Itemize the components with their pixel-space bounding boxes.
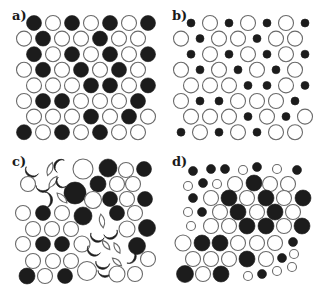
open-disc xyxy=(196,267,211,282)
small-filled-dot xyxy=(196,97,204,105)
filled-disc xyxy=(213,266,229,282)
open-disc xyxy=(141,252,156,267)
panel-b: b) xyxy=(172,8,313,140)
small-filled-dot xyxy=(263,50,271,58)
filled-disc xyxy=(177,266,194,283)
filled-disc xyxy=(93,31,108,46)
filled-disc xyxy=(36,237,51,252)
open-disc xyxy=(222,252,237,267)
open-disc xyxy=(122,47,137,62)
crescent-fragment xyxy=(36,185,50,192)
filled-disc xyxy=(199,179,208,188)
open-disc xyxy=(112,31,127,46)
small-filled-dot xyxy=(263,81,271,89)
filled-disc xyxy=(58,269,73,284)
filled-disc xyxy=(55,94,70,109)
filled-disc xyxy=(293,166,302,175)
filled-disc xyxy=(90,176,106,192)
panel-c: c) xyxy=(12,154,156,284)
open-disc xyxy=(277,191,292,206)
open-disc xyxy=(128,206,143,221)
open-disc xyxy=(78,262,97,281)
small-filled-dot xyxy=(187,50,195,58)
open-disc xyxy=(222,219,237,234)
small-filled-dot xyxy=(225,50,233,58)
filled-disc xyxy=(189,194,198,203)
filled-disc xyxy=(84,78,99,93)
open-disc xyxy=(269,94,284,109)
filled-disc xyxy=(36,94,51,109)
panel-b-label: b) xyxy=(172,8,187,23)
filled-disc xyxy=(129,238,146,255)
open-disc xyxy=(288,31,303,46)
open-disc xyxy=(27,78,42,93)
open-disc xyxy=(64,254,79,269)
filled-disc xyxy=(221,190,237,206)
open-disc xyxy=(187,222,196,231)
filled-disc xyxy=(221,165,230,174)
filled-disc xyxy=(17,125,32,140)
open-disc xyxy=(36,125,51,140)
open-disc xyxy=(241,47,256,62)
filled-disc xyxy=(198,208,207,217)
open-disc xyxy=(122,16,137,31)
open-disc xyxy=(46,78,61,93)
open-disc xyxy=(279,47,294,62)
small-filled-dot xyxy=(215,97,223,105)
open-disc xyxy=(290,250,299,259)
filled-disc xyxy=(74,62,89,77)
filled-disc xyxy=(103,192,118,207)
filled-disc xyxy=(258,218,274,234)
open-disc xyxy=(120,192,135,207)
panel-d-label: d) xyxy=(172,154,187,169)
small-filled-dot xyxy=(263,19,271,27)
open-disc xyxy=(279,78,294,93)
filled-disc xyxy=(36,31,51,46)
open-disc xyxy=(46,16,61,31)
open-disc xyxy=(26,254,41,269)
filled-disc xyxy=(239,251,255,267)
open-disc xyxy=(241,16,256,31)
open-disc xyxy=(103,109,118,124)
open-disc xyxy=(184,208,193,217)
panel-d: d) xyxy=(172,154,311,283)
open-disc xyxy=(119,163,134,178)
open-disc xyxy=(174,94,189,109)
open-disc xyxy=(288,125,303,140)
small-filled-dot xyxy=(215,128,223,136)
open-disc xyxy=(222,109,237,124)
open-disc xyxy=(231,31,246,46)
filled-disc xyxy=(212,235,228,251)
open-disc xyxy=(288,263,297,272)
filled-disc xyxy=(230,204,246,220)
open-disc xyxy=(119,221,135,237)
filled-disc xyxy=(122,109,137,124)
filled-disc xyxy=(36,62,51,77)
open-disc xyxy=(84,47,99,62)
open-disc xyxy=(231,125,246,140)
open-disc xyxy=(55,62,70,77)
particle-packing-figure: a) b) c) d) xyxy=(0,0,318,292)
small-filled-dot xyxy=(196,66,204,74)
filled-disc xyxy=(19,268,35,284)
open-disc xyxy=(213,205,228,220)
open-disc xyxy=(184,182,193,191)
open-disc xyxy=(279,16,294,31)
filled-disc xyxy=(112,62,127,77)
small-filled-dot xyxy=(234,66,242,74)
open-disc xyxy=(27,109,42,124)
open-disc xyxy=(250,94,265,109)
open-disc xyxy=(277,219,292,234)
filled-disc xyxy=(55,237,70,252)
crescent-fragment xyxy=(95,261,110,270)
small-filled-dot xyxy=(301,81,309,89)
small-filled-dot xyxy=(301,19,309,27)
filled-disc xyxy=(207,165,216,174)
open-disc xyxy=(184,78,199,93)
small-filled-dot xyxy=(282,113,290,121)
open-disc xyxy=(260,109,275,124)
open-disc xyxy=(250,205,265,220)
open-disc xyxy=(263,177,278,192)
open-disc xyxy=(74,94,89,109)
open-disc xyxy=(74,125,89,140)
